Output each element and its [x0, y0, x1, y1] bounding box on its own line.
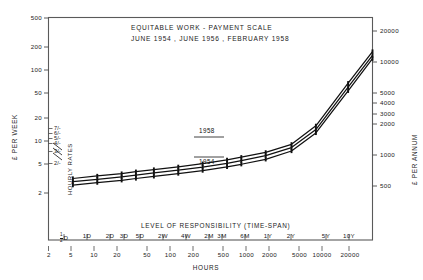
y-right-tick-label: 20000: [380, 28, 399, 34]
y-tick-label: 500: [20, 15, 42, 21]
timespan-tick-label: 2W: [154, 233, 172, 239]
timespan-tick-label: 5D: [131, 233, 149, 239]
chart-subtitle: JUNE 1954 , JUNE 1956 , FEBRUARY 1958: [131, 36, 289, 43]
timespan-tick-label: 1Y: [259, 233, 277, 239]
y-right-tick-label: 4000: [380, 100, 395, 106]
hours-tick-label: 500: [213, 252, 234, 258]
chart-figure: 500 200 100 50 20 10 5 2 £ PER WEEK HOUR…: [0, 0, 423, 280]
y-tick-label: 100: [20, 67, 42, 73]
series-annotation-1958: 1958: [199, 128, 215, 134]
hours-tick-label: 10: [85, 252, 103, 258]
y-axis-title: £ PER WEEK: [12, 114, 18, 160]
chart-title: EQUITABLE WORK - PAYMENT SCALE: [131, 25, 272, 32]
hours-tick-label: 200: [183, 252, 204, 258]
y-right-tick-label: 3000: [380, 111, 395, 117]
hours-tick-label: 20000: [334, 252, 366, 258]
timespan-tick-label: 3M: [213, 233, 231, 239]
timespan-tick-label: 6M: [236, 233, 254, 239]
y-right-tick-label: 500: [380, 183, 391, 189]
y-right-tick-label: 1000: [380, 152, 395, 158]
series-1954: [73, 57, 373, 188]
y-right-axis-title: £ PER ANNUM: [412, 134, 418, 185]
series-line: [73, 59, 373, 185]
hourly-rate-label: 4/-: [54, 141, 61, 147]
y-right-tick-label: 10000: [380, 59, 399, 65]
timespan-tick-label: 12D: [54, 231, 74, 243]
y-tick-label: 50: [20, 90, 42, 96]
series-annotation-1954: 1954: [199, 159, 215, 165]
series-layer: [73, 49, 373, 187]
y-tick-label: 10: [20, 138, 42, 144]
y-tick-label: 20: [20, 115, 42, 121]
timespan-tick-label: 10Y: [339, 233, 359, 239]
timespan-tick-label: 2Y: [282, 233, 300, 239]
timespan-axis-title: LEVEL OF RESPONSIBILITY (TIME-SPAN): [141, 223, 290, 229]
hourly-rate-ticks: [49, 129, 53, 164]
hours-tick-label: 20: [108, 252, 126, 258]
timespan-tick-label: 4W: [177, 233, 195, 239]
hours-tick-label: 2000: [257, 252, 282, 258]
y-right-tick-label: 5000: [380, 90, 395, 96]
y-right-tick-label: 2000: [380, 121, 395, 127]
hours-tick-label: 100: [160, 252, 181, 258]
hours-tick-label: 1000: [234, 252, 259, 258]
timespan-tick-label: 5Y: [317, 233, 335, 239]
hourly-rate-label: 3/-: [54, 149, 61, 155]
hours-tick-label: 5: [62, 252, 80, 258]
y-tick-label: 2: [20, 190, 42, 196]
annotation-leaders: [194, 137, 224, 157]
left-axis-ticks: [44, 18, 49, 193]
hours-tick-label: 2: [40, 252, 58, 258]
y-tick-label: 5: [20, 161, 42, 167]
x-axis-title: HOURS: [176, 265, 236, 271]
timespan-tick-label: 1D: [78, 233, 96, 239]
y-tick-label: 200: [20, 44, 42, 50]
hours-tick-label: 50: [138, 252, 156, 258]
hourly-rates-label: HOURLY RATES: [67, 143, 73, 195]
hourly-rate-label: 2/-: [54, 161, 61, 167]
